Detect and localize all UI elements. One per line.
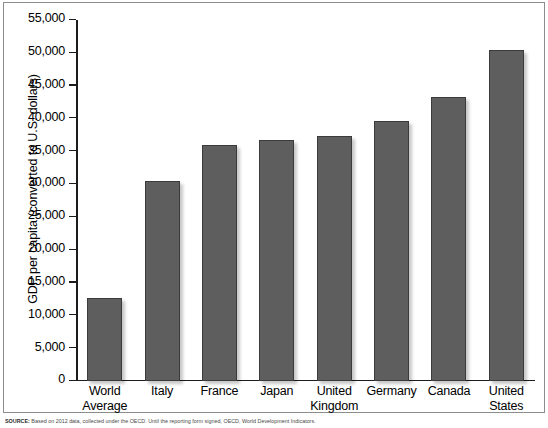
x-axis-label: Germany	[363, 384, 420, 399]
bar[interactable]	[374, 121, 409, 381]
source-note: SOURCE: Based on 2012 data, collected un…	[5, 418, 543, 425]
bar-slot	[420, 20, 477, 381]
y-axis-tick: 10,000	[69, 314, 76, 315]
x-axis-label: Italy	[133, 384, 190, 399]
bar-slot	[306, 20, 363, 381]
y-axis-tick: 30,000	[69, 183, 76, 184]
x-axis-label: WorldAverage	[76, 384, 133, 413]
x-axis-label-line: France	[191, 384, 248, 399]
y-axis-tick: 50,000	[69, 52, 76, 53]
y-axis-tick: 5,000	[69, 347, 76, 348]
x-axis-label: France	[191, 384, 248, 399]
y-axis-tick-label: 25,000	[28, 207, 65, 224]
bar[interactable]	[317, 136, 352, 381]
source-label: SOURCE:	[5, 418, 30, 424]
x-axis-label-line: United	[306, 384, 363, 399]
bar-slot	[133, 20, 190, 381]
source-text: Based on 2012 data, collected under the …	[31, 418, 315, 424]
y-axis-tick: 35,000	[69, 150, 76, 151]
y-axis-tick-label: 50,000	[28, 43, 65, 60]
x-axis-label-line: Average	[76, 399, 133, 414]
x-axis-label-line: Canada	[420, 384, 477, 399]
y-axis-tick-label: 5,000	[35, 339, 65, 356]
x-axis-label-line: Kingdom	[306, 399, 363, 414]
y-axis-tick-label: 55,000	[28, 10, 65, 27]
y-axis-tick: 45,000	[69, 84, 76, 85]
y-axis-tick-label: 15,000	[28, 273, 65, 290]
bar[interactable]	[87, 298, 122, 381]
plot-area: 05,00010,00015,00020,00025,00030,00035,0…	[76, 20, 535, 381]
x-axis-label: UnitedStates	[478, 384, 535, 413]
bar[interactable]	[259, 140, 294, 381]
bar-slot	[478, 20, 535, 381]
x-axis-label: UnitedKingdom	[306, 384, 363, 413]
bar-slot	[248, 20, 305, 381]
y-axis-tick: 0	[69, 380, 76, 381]
x-axis-label-line: States	[478, 399, 535, 414]
bar[interactable]	[431, 97, 466, 381]
x-axis-label-line: World	[76, 384, 133, 399]
y-axis-tick: 15,000	[69, 281, 76, 282]
x-axis-label-line: Japan	[248, 384, 305, 399]
bar-slot	[363, 20, 420, 381]
bar[interactable]	[489, 50, 524, 381]
x-axis-label-line: United	[478, 384, 535, 399]
x-axis-label-line: Italy	[133, 384, 190, 399]
y-axis-tick-label: 30,000	[28, 174, 65, 191]
y-axis-tick-label: 10,000	[28, 306, 65, 323]
y-axis-tick-label: 35,000	[28, 142, 65, 159]
y-axis-tick: 25,000	[69, 216, 76, 217]
y-axis-tick: 20,000	[69, 249, 76, 250]
gdp-per-capita-bar-chart-figure: GDP per capita (converted to U.S. dollar…	[0, 0, 548, 428]
y-axis-tick: 40,000	[69, 117, 76, 118]
bar-slot	[76, 20, 133, 381]
y-axis-tick-label: 40,000	[28, 109, 65, 126]
bar-slot	[191, 20, 248, 381]
bar[interactable]	[145, 181, 180, 381]
y-axis-tick: 55,000	[69, 19, 76, 20]
y-axis-tick-label: 0	[58, 371, 65, 388]
y-axis-tick-label: 45,000	[28, 76, 65, 93]
y-axis-tick-label: 20,000	[28, 240, 65, 257]
x-axis-label: Japan	[248, 384, 305, 399]
x-axis-label: Canada	[420, 384, 477, 399]
bar[interactable]	[202, 145, 237, 381]
x-axis-label-line: Germany	[363, 384, 420, 399]
